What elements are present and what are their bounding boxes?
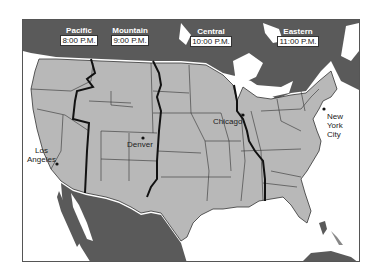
zone-time: 10:00 P.M.: [190, 36, 232, 47]
cuba: [301, 251, 359, 262]
zone-label-mountain: Mountain 9:00 P.M.: [105, 26, 155, 46]
city-label-denver: Denver: [127, 140, 153, 149]
zone-name: Pacific: [59, 26, 99, 35]
zone-name: Mountain: [105, 26, 155, 35]
zone-time: 9:00 P.M.: [111, 35, 148, 46]
city-line: City: [327, 130, 343, 139]
zone-name: Central: [186, 27, 236, 36]
zone-label-central: Central 10:00 P.M.: [186, 27, 236, 47]
new-york-marker: [322, 107, 325, 110]
zone-label-eastern: Eastern 11:00 P.M.: [273, 27, 323, 47]
time-zone-map: Pacific 8:00 P.M. Mountain 9:00 P.M. Cen…: [22, 19, 360, 262]
city-label-new-york-city: New York City: [327, 112, 343, 139]
zone-time: 8:00 P.M.: [60, 35, 97, 46]
city-line: New: [327, 112, 343, 121]
map-graphic: [23, 20, 360, 262]
city-line: Chicago: [213, 117, 242, 126]
zone-label-pacific: Pacific 8:00 P.M.: [59, 26, 99, 46]
city-line: York: [327, 121, 343, 130]
zone-time: 11:00 P.M.: [277, 36, 318, 47]
city-line: Angeles: [27, 155, 56, 164]
city-line: Denver: [127, 140, 153, 149]
zone-name: Eastern: [273, 27, 323, 36]
city-line: Los: [27, 146, 56, 155]
city-label-chicago: Chicago: [213, 117, 242, 126]
city-label-los-angeles: Los Angeles: [27, 146, 56, 164]
